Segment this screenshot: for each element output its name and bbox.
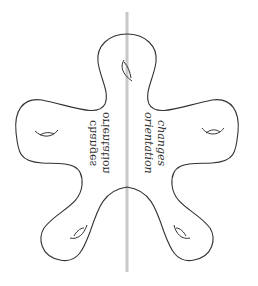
handle-left	[35, 130, 58, 136]
handle-right	[202, 128, 224, 134]
handle-bottom-right	[174, 225, 190, 238]
label-right-line2: changes	[155, 120, 168, 166]
surface-diagram: orientation changes orientation changes	[0, 0, 258, 286]
label-right-line1: orientation	[142, 112, 155, 174]
label-left-line2: changes	[86, 120, 99, 166]
label-left-line1: orientation	[99, 112, 112, 174]
handle-bottom-left	[70, 225, 87, 238]
